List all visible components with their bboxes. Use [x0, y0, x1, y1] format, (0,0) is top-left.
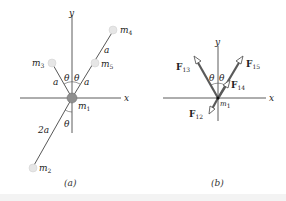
label-m1-b: m1: [220, 100, 230, 109]
label-a-upper: a: [104, 45, 109, 55]
label-theta-lower-a: θ: [64, 119, 70, 129]
figure-a: x y m4 m5 m3 m2 m1 a a a 2a θ θ θ (a): [20, 8, 133, 188]
label-a-left: a: [53, 77, 58, 87]
mass-m3: [48, 59, 56, 67]
angle-arc-lower: [65, 110, 72, 112]
label-m1: m1: [78, 101, 90, 112]
label-f15: F15: [246, 59, 260, 70]
label-m3: m3: [32, 58, 45, 69]
label-theta-left-b: θ: [209, 73, 215, 83]
label-m4: m4: [120, 25, 133, 36]
label-a-right: a: [84, 77, 89, 87]
y-axis-label-b: y: [214, 37, 221, 47]
y-axis-label-a: y: [68, 8, 75, 18]
force-arrow-f13: [197, 61, 218, 98]
label-f13: F13: [176, 62, 190, 73]
bottom-strip: [0, 194, 286, 201]
arrowhead-f15: [236, 56, 243, 64]
x-axis-label-b: x: [269, 93, 274, 103]
label-2a: 2a: [37, 125, 49, 135]
caption-a: (a): [64, 178, 77, 188]
label-theta-left-a: θ: [64, 73, 70, 83]
mass-m2: [29, 164, 37, 172]
caption-b: (b): [211, 178, 224, 188]
label-theta-right-a: θ: [74, 73, 80, 83]
mass-m4: [109, 26, 117, 34]
label-theta-right-b: θ: [219, 73, 225, 83]
figure-b: x y F13 F15 F14 F12 m1 θ θ (b): [163, 37, 274, 188]
mass-m5: [91, 59, 99, 67]
diagram-canvas: x y m4 m5 m3 m2 m1 a a a 2a θ θ θ (a): [0, 0, 286, 201]
label-f12: F12: [189, 109, 203, 120]
x-axis-label-a: x: [124, 93, 129, 103]
label-m5: m5: [101, 59, 114, 70]
label-f14: F14: [231, 80, 245, 91]
mass-m1: [67, 93, 77, 103]
label-m2: m2: [39, 163, 52, 174]
arrowhead-f13: [194, 56, 201, 64]
